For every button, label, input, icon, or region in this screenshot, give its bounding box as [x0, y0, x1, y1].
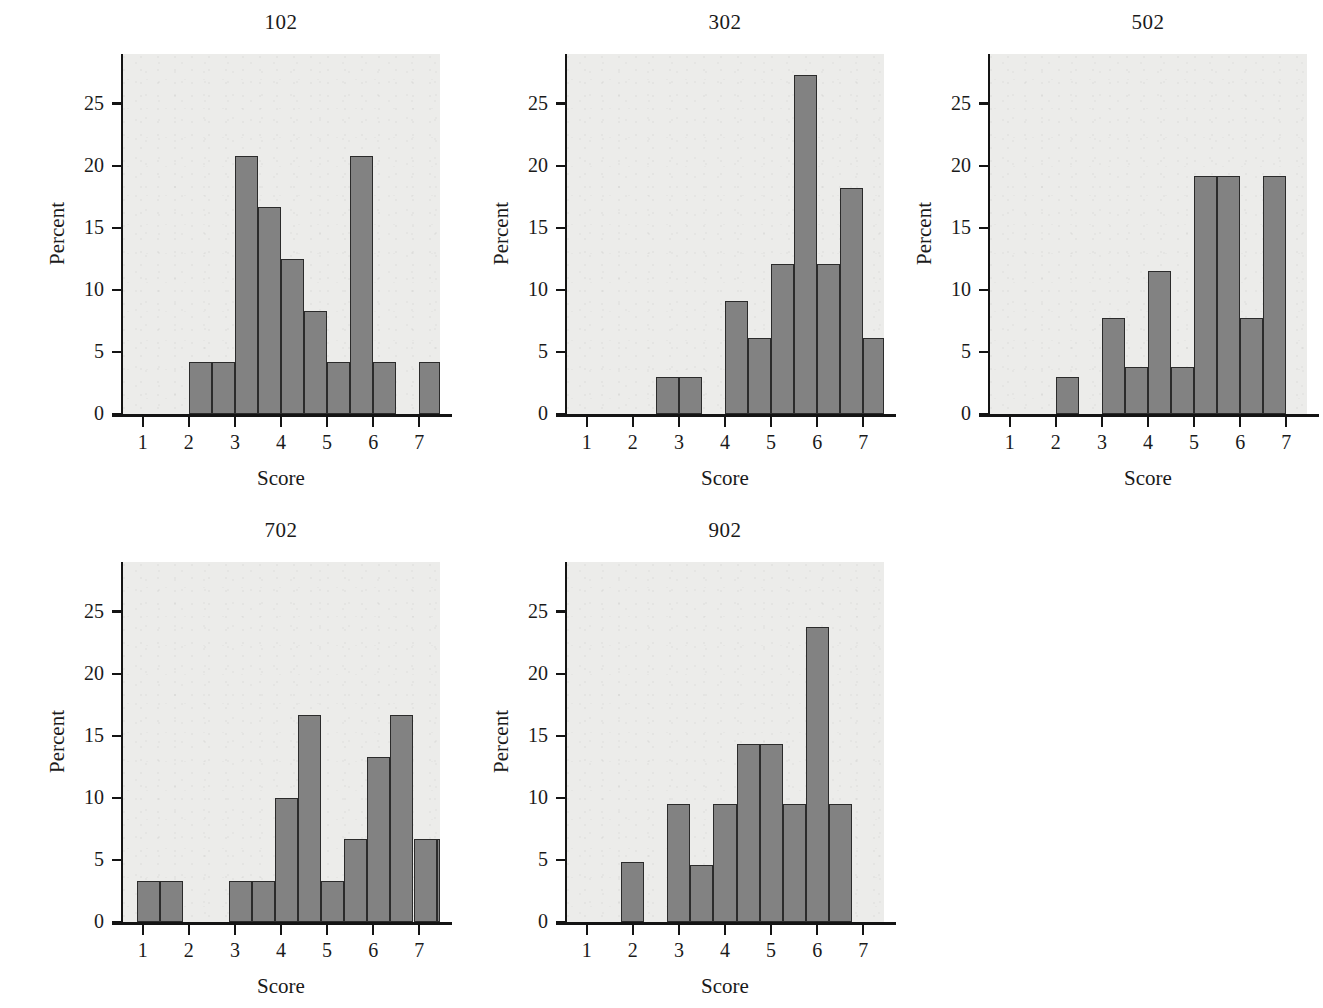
x-axis-tick	[142, 925, 144, 935]
x-axis-tick-label: 5	[307, 432, 347, 452]
x-axis-tick-label: 1	[990, 432, 1030, 452]
y-axis-tick	[556, 921, 565, 923]
y-axis-tick	[556, 859, 565, 861]
histogram-bar	[281, 259, 304, 414]
histogram-bar	[783, 804, 806, 922]
x-axis-tick-label: 2	[1036, 432, 1076, 452]
x-axis-tick-label: 4	[705, 940, 745, 960]
x-axis-tick	[678, 925, 680, 935]
histogram-bar	[725, 301, 748, 414]
x-axis-tick	[326, 417, 328, 427]
y-axis-tick	[979, 351, 988, 353]
y-axis-tick	[979, 102, 988, 104]
histogram-bar	[1125, 367, 1148, 414]
panel-title: 702	[122, 518, 440, 542]
histogram-bar	[829, 804, 852, 922]
x-axis-tick-label: 1	[567, 940, 607, 960]
histogram-bar	[275, 798, 298, 922]
x-axis-tick-label: 2	[613, 432, 653, 452]
histogram-bar	[258, 207, 281, 414]
x-axis-tick	[418, 417, 420, 427]
histogram-bar	[1263, 176, 1286, 414]
histogram-bar	[794, 75, 817, 414]
y-axis-tick-label: 0	[500, 911, 548, 931]
y-axis-tick	[112, 921, 121, 923]
y-axis-tick-label: 25	[56, 93, 104, 113]
histogram-bar	[390, 715, 413, 922]
y-axis-label: Percent	[489, 164, 514, 304]
x-axis-label: Score	[566, 974, 884, 999]
histogram-bar	[1217, 176, 1240, 414]
histogram-bar	[304, 311, 327, 414]
x-axis-tick	[188, 925, 190, 935]
x-axis-label: Score	[122, 974, 440, 999]
y-axis-tick	[556, 289, 565, 291]
x-axis-tick-label: 4	[1128, 432, 1168, 452]
y-axis-tick	[556, 413, 565, 415]
y-axis-tick	[112, 610, 121, 612]
y-axis-line	[121, 562, 124, 923]
x-axis-tick-label: 1	[567, 432, 607, 452]
x-axis-label: Score	[122, 466, 440, 491]
x-axis-tick-label: 2	[613, 940, 653, 960]
histogram-bar	[1194, 176, 1217, 414]
histogram-bar	[367, 757, 390, 922]
y-axis-tick-label: 25	[500, 601, 548, 621]
x-axis-tick	[724, 417, 726, 427]
histogram-bar	[437, 839, 440, 922]
x-axis-tick-label: 7	[399, 940, 439, 960]
panel-title: 302	[566, 10, 884, 34]
x-axis-tick	[586, 417, 588, 427]
histogram-panel: 90205101520251234567PercentScore	[462, 518, 924, 998]
histogram-bar	[806, 627, 829, 922]
histogram-bar	[252, 881, 275, 922]
histogram-bar	[1148, 271, 1171, 414]
histogram-bar	[737, 744, 760, 922]
y-axis-tick	[112, 289, 121, 291]
histogram-panel: 70205101520251234567PercentScore	[18, 518, 480, 998]
x-axis-tick-label: 7	[1266, 432, 1306, 452]
histogram-bar	[817, 264, 840, 414]
y-axis-line	[565, 562, 568, 923]
histogram-bar	[690, 865, 713, 922]
x-axis-tick-label: 4	[705, 432, 745, 452]
y-axis-tick-label: 5	[923, 341, 971, 361]
y-axis-tick-label: 5	[56, 341, 104, 361]
x-axis-label: Score	[989, 466, 1307, 491]
y-axis-tick	[112, 797, 121, 799]
histogram-bar	[189, 362, 212, 414]
histogram-bar	[327, 362, 350, 414]
x-axis-tick	[862, 417, 864, 427]
x-axis-tick	[280, 417, 282, 427]
y-axis-tick-label: 5	[56, 849, 104, 869]
histogram-bar	[1171, 367, 1194, 414]
histogram-bar	[419, 362, 440, 414]
x-axis-tick	[770, 925, 772, 935]
x-axis-tick-label: 6	[797, 432, 837, 452]
x-axis-tick	[1193, 417, 1195, 427]
histogram-bar	[667, 804, 690, 922]
x-axis-tick	[862, 925, 864, 935]
histogram-bar	[350, 156, 373, 414]
x-axis-tick-label: 7	[399, 432, 439, 452]
y-axis-tick-label: 0	[56, 403, 104, 423]
histogram-bar	[373, 362, 396, 414]
x-axis-tick-label: 3	[1082, 432, 1122, 452]
x-axis-tick-label: 5	[751, 940, 791, 960]
x-axis-tick-label: 6	[353, 940, 393, 960]
y-axis-tick-label: 5	[500, 849, 548, 869]
x-axis-tick	[372, 417, 374, 427]
x-axis-tick-label: 4	[261, 432, 301, 452]
y-axis-label: Percent	[45, 672, 70, 812]
plot-area	[122, 54, 440, 414]
histogram-bar	[1102, 318, 1125, 414]
y-axis-label: Percent	[45, 164, 70, 304]
x-axis-tick	[770, 417, 772, 427]
y-axis-tick-label: 25	[500, 93, 548, 113]
x-axis-tick-label: 5	[1174, 432, 1214, 452]
histogram-bar	[748, 338, 771, 414]
y-axis-tick	[112, 413, 121, 415]
histogram-bar	[298, 715, 321, 922]
y-axis-label: Percent	[489, 672, 514, 812]
